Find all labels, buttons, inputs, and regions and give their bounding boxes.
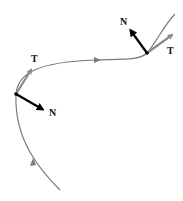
tangent-label: T <box>167 45 174 56</box>
normal-vector-arrow-icon <box>16 94 42 109</box>
tangent-vector-arrow-icon <box>16 70 31 94</box>
curve-direction-arrow-icon <box>94 57 101 63</box>
curve-point-marker <box>145 51 149 55</box>
normal-label: N <box>120 16 128 27</box>
tangent-label: T <box>31 53 38 64</box>
point-1-vectors: T N <box>14 53 57 118</box>
curve-direction-arrow-icon <box>30 158 36 166</box>
space-curve <box>16 14 175 190</box>
normal-vector-arrow-icon <box>131 31 147 53</box>
curve-diagram: T N N T <box>0 0 183 201</box>
point-2-vectors: N T <box>120 16 174 56</box>
normal-label: N <box>49 107 57 118</box>
curve-point-marker <box>14 92 18 96</box>
